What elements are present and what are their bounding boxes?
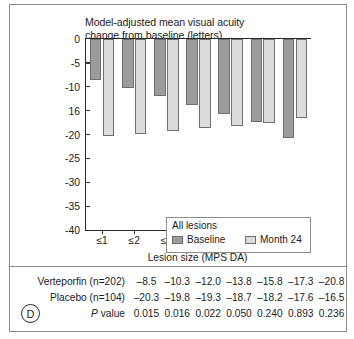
row-label-pvalue: P value [9,308,131,319]
table-cell: –16.5 [316,292,347,303]
table-cell: 0.016 [162,308,193,319]
plot-area: 0-5-1016-20-25-30-35-40 ≤1≤2≤3≤4≤5≤6≤9 A… [85,38,311,231]
p-italic: P [91,308,98,319]
bar-month-24-4 [231,39,243,126]
bar-group [118,39,150,230]
table-cell: –12.0 [193,276,224,287]
bar-month-24-3 [199,39,211,128]
legend-label-baseline: Baseline [187,234,225,246]
bar-baseline-6 [283,39,295,138]
legend-item-baseline: Baseline [172,234,245,246]
table-cell: 0.236 [316,308,347,319]
bar-group [182,39,214,230]
y-tick-5: -25 [65,153,86,164]
y-tick-label: -40 [65,225,86,236]
table-cell: –8.5 [131,276,162,287]
bar-baseline-4 [218,39,230,114]
table-cell: –19.3 [193,292,224,303]
legend-item-month24: Month 24 [245,234,302,246]
y-tick-label: -10 [65,81,86,92]
chart-legend: All lesions Baseline Month 24 [166,217,311,253]
y-tick-label: 0 [74,34,86,45]
x-tick-mark [102,230,103,234]
bar-month-24-5 [263,39,275,123]
table-cell: –13.8 [224,276,255,287]
y-tick-label: -30 [65,177,86,188]
bar-month-24-6 [296,39,308,118]
table-cell: –20.3 [131,292,162,303]
legend-label-month24: Month 24 [260,234,302,246]
bar-group [86,39,118,230]
table-row: P value 0.0150.0160.0220.0500.2400.8930.… [9,305,347,321]
chart-title-line-1: Model-adjusted mean visual acuity [85,16,335,29]
table-cell: –10.3 [162,276,193,287]
y-tick-label: -20 [65,129,86,140]
chart-region: Model-adjusted mean visual acuity change… [10,5,346,265]
table-cell: –19.8 [162,292,193,303]
y-tick-6: -30 [65,177,86,188]
row-label-placebo: Placebo (n=104) [9,292,131,303]
table-cell: –18.2 [254,292,285,303]
data-table: D Verteporfin (n=202) –8.5–10.3–12.0–13.… [9,266,347,332]
table-cell: –18.7 [224,292,255,303]
bar-month-24-2 [167,39,179,131]
bar-group [215,39,247,230]
table-cell: –17.3 [285,276,316,287]
legend-entries: Baseline Month 24 [172,234,305,246]
table-cell: –20.8 [316,276,347,287]
y-tick-label: -35 [65,201,86,212]
row-values-placebo: –20.3–19.8–19.3–18.7–18.2–17.6–16.5 [131,292,347,303]
table-cell: 0.022 [193,308,224,319]
bar-baseline-5 [251,39,263,122]
bar-baseline-3 [186,39,198,105]
table-row: Placebo (n=104) –20.3–19.8–19.3–18.7–18.… [9,289,347,305]
bar-group [247,39,279,230]
bar-group [279,39,311,230]
table-cell: 0.893 [285,308,316,319]
figure-panel-d: Model-adjusted mean visual acuity change… [0,0,354,339]
bar-month-24-1 [135,39,147,134]
bar-month-24-0 [103,39,115,136]
legend-swatch-baseline [172,236,183,244]
y-tick-1: -5 [71,57,86,68]
y-tick-label: 16 [68,105,86,116]
bar-baseline-1 [122,39,134,88]
row-values-pvalue: 0.0150.0160.0220.0500.2400.8930.236 [131,308,347,319]
table-cell: –17.6 [285,292,316,303]
table-row: Verteporfin (n=202) –8.5–10.3–12.0–13.8–… [9,273,347,289]
y-tick-label: -5 [71,57,86,68]
table-cell: 0.240 [254,308,285,319]
x-tick-label-0: ≤1 [96,235,107,246]
table-cell: –15.8 [254,276,285,287]
row-values-verteporfin: –8.5–10.3–12.0–13.8–15.8–17.3–20.8 [131,276,347,287]
p-word: value [101,308,125,319]
bar-groups [86,39,311,230]
legend-swatch-month24 [245,236,256,244]
bar-baseline-0 [90,39,102,80]
y-tick-7: -35 [65,201,86,212]
y-tick-label: -25 [65,153,86,164]
bar-baseline-2 [154,39,166,96]
legend-title: All lesions [172,220,305,232]
y-tick-8: -40 [65,225,86,236]
x-tick-mark [134,230,135,234]
table-cell: 0.050 [224,308,255,319]
bar-group [150,39,182,230]
y-tick-0: 0 [74,34,86,45]
x-axis-title: Lesion size (MPS DA) [85,252,310,263]
y-tick-4: -20 [65,129,86,140]
row-label-verteporfin: Verteporfin (n=202) [9,276,131,287]
y-tick-3: 16 [68,105,86,116]
table-cell: 0.015 [131,308,162,319]
y-tick-2: -10 [65,81,86,92]
x-tick-label-1: ≤2 [129,235,140,246]
